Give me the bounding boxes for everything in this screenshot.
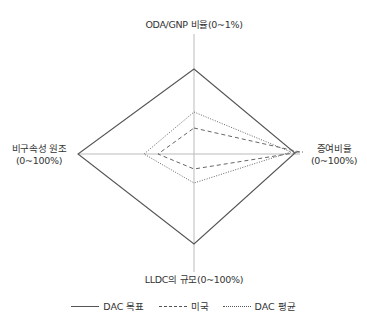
axis-label-right-line1: 증여비율 (304, 143, 364, 155)
axis-label-right-line2: (0~100%) (304, 155, 364, 167)
axis-label-left: 비구속성 원조 (0~100%) (4, 143, 74, 167)
axis-label-left-line2: (0~100%) (4, 155, 74, 167)
series-dac-target (78, 69, 295, 244)
legend-item-dac-target: DAC 목표 (71, 299, 144, 313)
dotted-line-icon (223, 306, 251, 307)
axis-label-left-line1: 비구속성 원조 (4, 143, 74, 155)
legend-item-usa: 미국 (159, 299, 209, 313)
legend-item-dac-average: DAC 평균 (223, 299, 296, 313)
solid-line-icon (71, 306, 99, 307)
legend-label: DAC 목표 (103, 299, 144, 313)
legend-label: DAC 평균 (255, 299, 296, 313)
axis-label-right: 증여비율 (0~100%) (304, 143, 364, 167)
legend: DAC 목표 미국 DAC 평균 (0, 299, 367, 313)
series-usa (158, 128, 300, 169)
axis-label-bottom: LLDC의 규모(0~100%) (134, 274, 254, 286)
dashed-line-icon (159, 306, 187, 307)
axis-label-top: ODA/GNP 비율(0~1%) (134, 19, 254, 31)
legend-label: 미국 (191, 299, 209, 313)
series-dac-average (144, 112, 291, 183)
